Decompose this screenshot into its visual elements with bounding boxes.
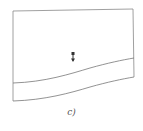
upper-layer-boundary — [13, 58, 134, 83]
lower-layer-boundary — [13, 77, 134, 101]
down-arrow-marker-icon — [71, 52, 75, 62]
figure-caption: c) — [0, 107, 143, 117]
diagram-figure: c) — [0, 0, 143, 131]
